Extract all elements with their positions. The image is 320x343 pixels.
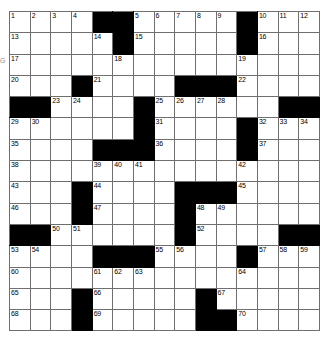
letter-cell[interactable] <box>299 203 320 224</box>
letter-cell[interactable] <box>71 139 92 160</box>
letter-cell[interactable] <box>299 267 320 288</box>
letter-cell[interactable]: 47 <box>92 203 113 224</box>
letter-cell[interactable] <box>195 33 216 54</box>
letter-cell[interactable] <box>30 75 51 96</box>
letter-cell[interactable]: 62 <box>113 267 134 288</box>
letter-cell[interactable] <box>278 161 299 182</box>
letter-cell[interactable]: 12 <box>299 12 320 33</box>
letter-cell[interactable]: 44 <box>92 182 113 203</box>
letter-cell[interactable]: 68 <box>10 310 31 331</box>
letter-cell[interactable] <box>71 118 92 139</box>
letter-cell[interactable] <box>154 288 175 309</box>
letter-cell[interactable] <box>278 54 299 75</box>
letter-cell[interactable] <box>278 288 299 309</box>
letter-cell[interactable]: 15 <box>133 33 154 54</box>
letter-cell[interactable] <box>175 54 196 75</box>
letter-cell[interactable] <box>257 310 278 331</box>
letter-cell[interactable] <box>113 310 134 331</box>
letter-cell[interactable]: 26 <box>175 97 196 118</box>
letter-cell[interactable]: 23 <box>51 97 72 118</box>
letter-cell[interactable]: 57 <box>257 246 278 267</box>
letter-cell[interactable] <box>133 310 154 331</box>
letter-cell[interactable] <box>257 224 278 245</box>
letter-cell[interactable] <box>175 288 196 309</box>
letter-cell[interactable]: 69 <box>92 310 113 331</box>
letter-cell[interactable] <box>175 139 196 160</box>
letter-cell[interactable] <box>195 161 216 182</box>
letter-cell[interactable]: 3 <box>51 12 72 33</box>
letter-cell[interactable] <box>299 288 320 309</box>
letter-cell[interactable]: 18 <box>113 54 134 75</box>
letter-cell[interactable]: 64 <box>237 267 258 288</box>
letter-cell[interactable]: 61 <box>92 267 113 288</box>
letter-cell[interactable] <box>71 161 92 182</box>
letter-cell[interactable] <box>133 182 154 203</box>
letter-cell[interactable]: 32 <box>257 118 278 139</box>
letter-cell[interactable] <box>237 97 258 118</box>
letter-cell[interactable] <box>133 224 154 245</box>
letter-cell[interactable]: 11 <box>278 12 299 33</box>
letter-cell[interactable] <box>195 54 216 75</box>
letter-cell[interactable] <box>257 54 278 75</box>
letter-cell[interactable]: 46 <box>10 203 31 224</box>
letter-cell[interactable] <box>175 118 196 139</box>
letter-cell[interactable] <box>237 288 258 309</box>
crossword-grid[interactable]: 1234567891011121314151617181920212223242… <box>9 11 320 331</box>
letter-cell[interactable] <box>216 118 237 139</box>
letter-cell[interactable] <box>30 33 51 54</box>
letter-cell[interactable]: 8 <box>195 12 216 33</box>
letter-cell[interactable] <box>113 97 134 118</box>
letter-cell[interactable]: 41 <box>133 161 154 182</box>
letter-cell[interactable]: 39 <box>92 161 113 182</box>
letter-cell[interactable]: 28 <box>216 97 237 118</box>
letter-cell[interactable]: 9 <box>216 12 237 33</box>
letter-cell[interactable] <box>154 203 175 224</box>
letter-cell[interactable]: 19 <box>237 54 258 75</box>
letter-cell[interactable] <box>30 203 51 224</box>
letter-cell[interactable] <box>71 246 92 267</box>
letter-cell[interactable] <box>30 310 51 331</box>
letter-cell[interactable]: 20 <box>10 75 31 96</box>
letter-cell[interactable]: 66 <box>92 288 113 309</box>
letter-cell[interactable] <box>51 54 72 75</box>
letter-cell[interactable]: 65 <box>10 288 31 309</box>
letter-cell[interactable] <box>51 310 72 331</box>
letter-cell[interactable]: 4 <box>71 12 92 33</box>
letter-cell[interactable] <box>216 161 237 182</box>
letter-cell[interactable] <box>195 118 216 139</box>
letter-cell[interactable] <box>278 139 299 160</box>
letter-cell[interactable]: 13 <box>10 33 31 54</box>
letter-cell[interactable]: 49 <box>216 203 237 224</box>
letter-cell[interactable] <box>278 310 299 331</box>
letter-cell[interactable] <box>216 54 237 75</box>
letter-cell[interactable]: 22 <box>237 75 258 96</box>
letter-cell[interactable] <box>51 246 72 267</box>
letter-cell[interactable] <box>299 161 320 182</box>
letter-cell[interactable]: 36 <box>154 139 175 160</box>
letter-cell[interactable]: 51 <box>71 224 92 245</box>
letter-cell[interactable] <box>51 33 72 54</box>
letter-cell[interactable]: 48 <box>195 203 216 224</box>
letter-cell[interactable]: 1 <box>10 12 31 33</box>
letter-cell[interactable] <box>299 310 320 331</box>
letter-cell[interactable] <box>51 75 72 96</box>
letter-cell[interactable] <box>216 139 237 160</box>
letter-cell[interactable]: 52 <box>195 224 216 245</box>
letter-cell[interactable] <box>154 161 175 182</box>
letter-cell[interactable]: 63 <box>133 267 154 288</box>
letter-cell[interactable] <box>195 267 216 288</box>
letter-cell[interactable] <box>299 182 320 203</box>
letter-cell[interactable] <box>30 288 51 309</box>
letter-cell[interactable] <box>257 182 278 203</box>
letter-cell[interactable] <box>175 33 196 54</box>
letter-cell[interactable]: 25 <box>154 97 175 118</box>
letter-cell[interactable] <box>113 288 134 309</box>
letter-cell[interactable] <box>30 161 51 182</box>
letter-cell[interactable]: 43 <box>10 182 31 203</box>
letter-cell[interactable]: 58 <box>278 246 299 267</box>
letter-cell[interactable] <box>71 267 92 288</box>
letter-cell[interactable] <box>30 54 51 75</box>
letter-cell[interactable] <box>51 182 72 203</box>
letter-cell[interactable] <box>30 182 51 203</box>
letter-cell[interactable] <box>195 246 216 267</box>
